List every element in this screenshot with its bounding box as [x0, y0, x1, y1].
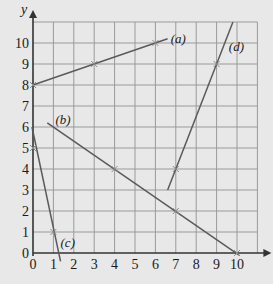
x-tick-label: 2 [70, 257, 77, 272]
y-tick-label: 3 [22, 183, 29, 198]
y-tick-label: 4 [22, 162, 29, 177]
line-label: (c) [61, 235, 75, 250]
y-tick-label: 2 [22, 204, 29, 219]
grid [33, 22, 257, 253]
plot-lines [32, 22, 239, 261]
x-tick-label: 5 [132, 257, 139, 272]
y-axis-arrow-icon [29, 10, 37, 18]
x-tick-label: 6 [152, 257, 159, 272]
y-tick-label: 8 [22, 78, 29, 93]
line-label: (b) [55, 112, 70, 127]
y-tick-label: 1 [22, 225, 29, 240]
y-tick-label: 7 [22, 99, 29, 114]
x-tick-label: 7 [172, 257, 179, 272]
x-tick-label: 9 [213, 257, 220, 272]
x-tick-label: 4 [111, 257, 118, 272]
x-tick-label: 10 [230, 257, 244, 272]
x-axis-arrow-icon [263, 249, 271, 257]
x-tick-label: 3 [91, 257, 98, 272]
tick-labels: 012345678910012345678910 [15, 36, 244, 272]
y-tick-label: 9 [22, 57, 29, 72]
line-c [32, 127, 61, 261]
line-label: (d) [229, 39, 244, 54]
y-axis-label: y [19, 2, 28, 17]
y-tick-label: 5 [22, 141, 29, 156]
y-tick-label: 0 [22, 246, 29, 261]
line-graph: xy 012345678910012345678910 (a)(b)(c)(d) [0, 0, 273, 284]
y-tick-label: 10 [15, 36, 29, 51]
x-tick-label: 0 [30, 257, 37, 272]
line-label: (a) [171, 31, 186, 46]
x-tick-label: 1 [50, 257, 57, 272]
y-tick-label: 6 [22, 120, 29, 135]
x-tick-label: 8 [193, 257, 200, 272]
line-b [47, 123, 239, 255]
